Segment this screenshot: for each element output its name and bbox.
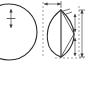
technical-drawing-canvas [0, 0, 88, 97]
drawing-svg [0, 0, 88, 97]
